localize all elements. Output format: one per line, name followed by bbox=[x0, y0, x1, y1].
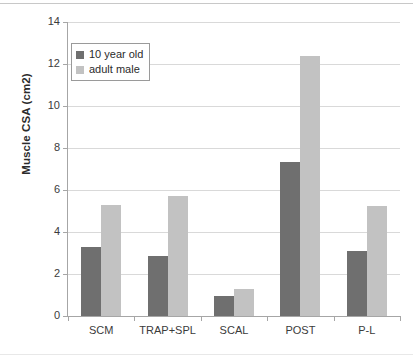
bar-scal-10-year-old bbox=[214, 296, 234, 316]
x-tick-mark bbox=[267, 316, 268, 321]
chart-legend: 10 year old adult male bbox=[71, 43, 150, 81]
bar-trap-spl-10-year-old bbox=[148, 256, 168, 316]
x-axis-line bbox=[68, 316, 400, 317]
bottom-frame-divider bbox=[0, 354, 413, 355]
x-tick-mark bbox=[68, 316, 69, 321]
x-tick-mark bbox=[334, 316, 335, 321]
legend-swatch-icon bbox=[76, 66, 84, 74]
x-tick-mark bbox=[134, 316, 135, 321]
x-tick-label: TRAP+SPL bbox=[134, 324, 200, 336]
y-tick-label: 8 bbox=[28, 142, 60, 153]
y-tick-label: 12 bbox=[28, 58, 60, 69]
bar-post-adult-male bbox=[300, 56, 320, 316]
bar-scm-adult-male bbox=[101, 205, 121, 316]
bar-post-10-year-old bbox=[280, 162, 300, 316]
x-tick-label: P-L bbox=[334, 324, 400, 336]
x-tick-label: POST bbox=[267, 324, 333, 336]
x-tick-mark bbox=[400, 316, 401, 321]
y-tick-label: 4 bbox=[28, 226, 60, 237]
x-tick-mark bbox=[201, 316, 202, 321]
x-tick-label: SCM bbox=[68, 324, 134, 336]
legend-item: 10 year old bbox=[76, 47, 143, 62]
y-axis-tick-labels: 02468101214 bbox=[20, 0, 60, 356]
y-tick-label: 10 bbox=[28, 100, 60, 111]
y-tick-label: 14 bbox=[28, 16, 60, 27]
bar-scm-10-year-old bbox=[81, 247, 101, 316]
y-tick-label: 0 bbox=[28, 310, 60, 321]
legend-label: 10 year old bbox=[89, 49, 143, 60]
x-tick-label: SCAL bbox=[201, 324, 267, 336]
bar-chart: Muscle CSA (cm2) 02468101214 SCMTRAP+SPL… bbox=[0, 0, 413, 356]
bar-p-l-10-year-old bbox=[347, 251, 367, 316]
bar-p-l-adult-male bbox=[367, 206, 387, 316]
y-tick-label: 2 bbox=[28, 268, 60, 279]
legend-swatch-icon bbox=[76, 51, 84, 59]
legend-item: adult male bbox=[76, 62, 143, 77]
top-frame-divider bbox=[0, 3, 413, 4]
bar-trap-spl-adult-male bbox=[168, 196, 188, 316]
bar-scal-adult-male bbox=[234, 289, 254, 316]
legend-label: adult male bbox=[89, 64, 140, 75]
y-tick-label: 6 bbox=[28, 184, 60, 195]
